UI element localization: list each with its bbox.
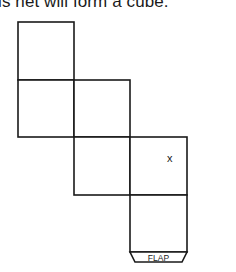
net-face-1	[18, 22, 74, 80]
cube-net-diagram: x FLAP	[0, 0, 236, 272]
net-face-2	[18, 80, 74, 137]
net-face-3	[74, 80, 130, 137]
flap-label: FLAP	[148, 253, 170, 263]
net-face-4	[74, 137, 130, 195]
face-mark-x: x	[167, 152, 173, 164]
net-face-6	[130, 195, 187, 252]
net-face-5-marked	[130, 137, 187, 195]
